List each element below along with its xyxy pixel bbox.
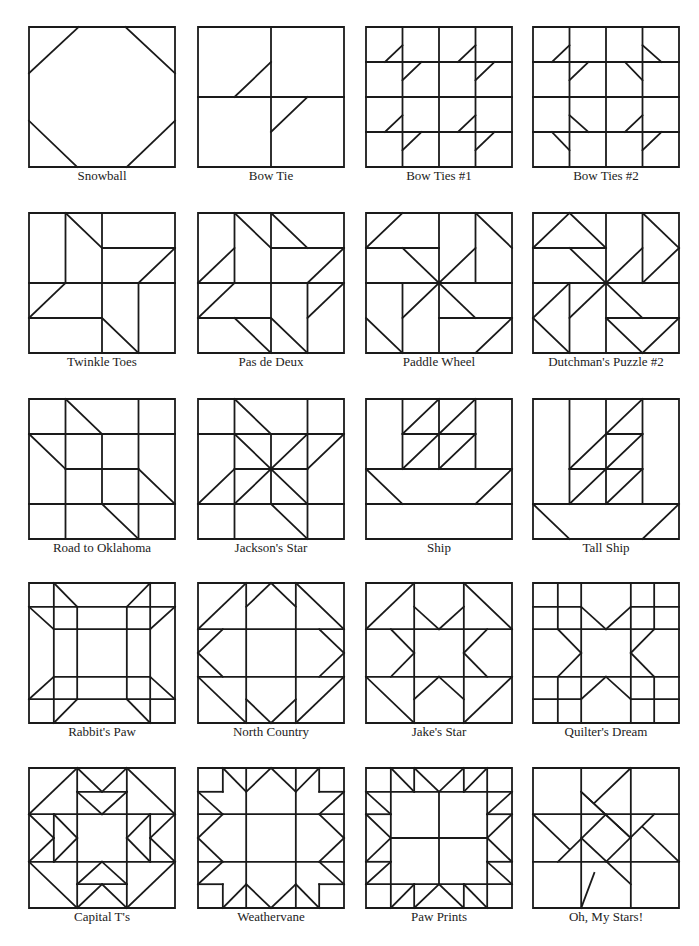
seam-line <box>198 677 246 723</box>
seam-line <box>127 838 150 862</box>
seam-line <box>391 884 414 908</box>
seam-line <box>102 792 127 814</box>
seam-line <box>319 838 344 862</box>
seam-line <box>439 884 464 908</box>
seam-line <box>29 838 54 862</box>
seam-line <box>625 62 643 80</box>
seam-line <box>77 862 102 884</box>
seam-line <box>570 62 589 80</box>
seam-line <box>235 318 272 353</box>
seam-line <box>476 132 495 150</box>
seam-line <box>296 768 319 792</box>
seam-line <box>366 318 403 353</box>
seam-line <box>366 213 403 248</box>
block-name-label: Dutchman's Puzzle #2 <box>533 355 679 369</box>
block-seams <box>366 213 512 353</box>
seam-line <box>150 838 175 862</box>
block-name-label: Bow Tie <box>198 169 344 183</box>
seam-line <box>581 677 606 699</box>
quilt-block-paddle-wheel: Paddle Wheel <box>366 213 512 369</box>
seam-line <box>414 768 439 792</box>
block-seams <box>366 768 512 908</box>
seam-line <box>271 699 296 723</box>
quilt-block-diagram <box>533 27 679 167</box>
seam-line <box>271 97 308 132</box>
seam-line <box>439 677 464 699</box>
quilt-block-bow-tie: Bow Tie <box>198 27 344 183</box>
seam-line <box>643 213 680 248</box>
quilt-block-diagram <box>533 583 679 723</box>
quilt-block-diagram <box>29 27 175 167</box>
quilt-block-pas-de-deux: Pas de Deux <box>198 213 344 369</box>
seam-line <box>403 434 440 469</box>
seam-line <box>308 434 345 469</box>
seam-line <box>403 399 440 434</box>
seam-line <box>581 607 606 629</box>
block-name-label: North Country <box>198 725 344 739</box>
quilt-block-diagram <box>198 768 344 908</box>
quilt-block-diagram <box>366 213 512 353</box>
seam-line <box>643 45 662 62</box>
seam-line <box>533 283 570 318</box>
quilt-block-quilter-s-dream: Quilter's Dream <box>533 583 679 739</box>
seam-line <box>198 629 223 653</box>
quilt-block-twinkle-toes: Twinkle Toes <box>29 213 175 369</box>
seam-line <box>29 768 77 814</box>
seam-line <box>29 121 77 167</box>
block-seams <box>533 583 679 723</box>
quilt-block-diagram <box>198 27 344 167</box>
block-border <box>533 768 679 908</box>
block-name-label: Pas de Deux <box>198 355 344 369</box>
seam-line <box>476 62 495 80</box>
seam-line <box>102 862 127 884</box>
seam-line <box>606 318 643 353</box>
seam-line <box>366 792 391 814</box>
seam-line <box>246 884 271 908</box>
seam-line <box>198 248 235 283</box>
quilt-block-snowball: Snowball <box>29 27 175 183</box>
seam-line <box>487 814 512 838</box>
seam-line <box>464 677 512 723</box>
quilt-block-dutchman-s-puzzle-2: Dutchman's Puzzle #2 <box>533 213 679 369</box>
seam-line <box>271 318 308 353</box>
seam-line <box>198 792 223 814</box>
quilt-block-road-to-oklahoma: Road to Oklahoma <box>29 399 175 555</box>
seam-line <box>125 27 175 73</box>
quilt-block-bow-ties-1: Bow Ties #1 <box>366 27 512 183</box>
seam-line <box>271 583 296 607</box>
quilt-block-diagram <box>29 213 175 353</box>
seam-line <box>643 248 680 283</box>
seam-line <box>139 469 176 504</box>
seam-line <box>487 838 512 862</box>
seam-line <box>552 45 570 62</box>
seam-line <box>476 318 513 353</box>
seam-line <box>127 583 150 607</box>
seam-line <box>198 469 235 504</box>
quilt-block-capital-t-s: Capital T's <box>29 768 175 924</box>
seam-line <box>625 115 643 132</box>
seam-line <box>319 792 344 814</box>
seam-line <box>198 814 223 838</box>
seam-line <box>223 884 246 908</box>
quilt-block-bow-ties-2: Bow Ties #2 <box>533 27 679 183</box>
seam-line <box>29 814 54 838</box>
seam-line <box>246 699 271 723</box>
seam-line <box>570 213 607 248</box>
quilt-block-rabbit-s-paw: Rabbit's Paw <box>29 583 175 739</box>
seam-line <box>594 768 631 803</box>
seam-line <box>385 45 403 62</box>
seam-line <box>102 884 127 908</box>
block-border <box>29 27 175 167</box>
block-name-label: Oh, My Stars! <box>533 910 679 924</box>
seam-line <box>391 768 414 792</box>
seam-line <box>414 677 439 699</box>
seam-line <box>414 607 439 629</box>
block-name-label: Capital T's <box>29 910 175 924</box>
seam-line <box>403 132 422 150</box>
block-seams <box>366 399 512 504</box>
quilt-block-diagram <box>198 213 344 353</box>
seam-line <box>643 318 680 353</box>
block-name-label: Ship <box>366 541 512 555</box>
seam-line <box>570 469 607 504</box>
seam-line <box>458 45 476 62</box>
